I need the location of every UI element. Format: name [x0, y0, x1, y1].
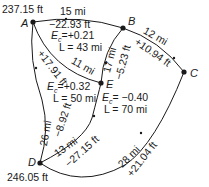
node-c-label: C: [190, 68, 198, 79]
node-a-elevation: 237.15 ft: [2, 4, 43, 15]
node-d: [37, 160, 42, 165]
node-e-label: E: [106, 79, 113, 90]
node-b-label: B: [128, 16, 135, 27]
loop-abe-length: L = 43 mi: [59, 42, 102, 53]
node-d-elevation: 246.05 ft: [7, 172, 48, 183]
loop-ade-length: L = 50 mi: [53, 93, 96, 104]
edge-ab-diff: −22.93 ft: [49, 19, 90, 30]
node-d-label: D: [28, 157, 36, 168]
node-a: [30, 19, 35, 24]
node-b: [120, 25, 125, 30]
loop-bcde-length: L = 70 mi: [104, 104, 147, 115]
node-e: [98, 80, 103, 85]
node-a-label: A: [21, 18, 28, 29]
node-c: [181, 69, 186, 74]
edge-ab-length: 15 mi: [60, 6, 86, 17]
